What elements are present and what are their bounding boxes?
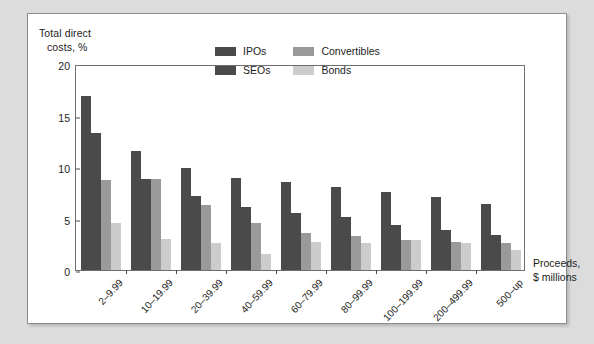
y-axis-title-line-1: Total direct [39, 27, 91, 39]
y-tick-label: 10 [58, 163, 70, 175]
scanned-page-card: Total direct costs, % 05101520 2–9.9910–… [27, 13, 567, 324]
bar-group [131, 66, 171, 270]
bar-chart: Total direct costs, % 05101520 2–9.9910–… [28, 14, 568, 325]
bar-convertibles[interactable] [251, 223, 261, 270]
bar-ipos[interactable] [331, 187, 341, 270]
x-tick-label: 2–9.99 [96, 277, 125, 307]
bar-group [381, 66, 421, 270]
legend-swatch-icon [293, 47, 314, 56]
bar-ipos[interactable] [181, 168, 191, 270]
x-tick-label: 20–39.99 [189, 277, 225, 315]
bar-bonds[interactable] [511, 250, 521, 270]
x-tick-label: 80–99.99 [339, 277, 375, 315]
legend-entry-bonds[interactable]: Bonds [293, 64, 379, 76]
bar-seos[interactable] [141, 179, 151, 270]
plot-frame: 05101520 2–9.9910–19.9920–39.9940–59.996… [75, 65, 525, 271]
bar-seos[interactable] [341, 217, 351, 270]
bar-group [81, 66, 121, 270]
x-tick-label: 500–up [494, 277, 525, 309]
bar-ipos[interactable] [431, 197, 441, 270]
y-axis-title-line-2: costs, % [39, 41, 87, 55]
bar-convertibles[interactable] [351, 236, 361, 270]
legend-entry-ipos[interactable]: IPOs [215, 45, 270, 57]
x-tick-label: 40–59.99 [239, 277, 275, 315]
x-axis-title: Proceeds, $ millions [533, 257, 580, 284]
bar-seos[interactable] [441, 230, 451, 270]
bar-convertibles[interactable] [101, 180, 111, 270]
bar-convertibles[interactable] [401, 240, 411, 270]
bars-layer [76, 66, 524, 270]
bar-ipos[interactable] [231, 178, 241, 270]
bar-group [331, 66, 371, 270]
y-tick-mark [76, 272, 80, 273]
x-tick-mark [376, 270, 377, 274]
x-axis-title-line-2: $ millions [533, 271, 577, 283]
x-tick-label: 200–499.99 [431, 277, 475, 323]
legend: IPOsConvertiblesSEOsBonds [215, 45, 380, 76]
bar-bonds[interactable] [161, 239, 171, 270]
bar-bonds[interactable] [111, 223, 121, 270]
x-axis-title-line-1: Proceeds, [533, 257, 580, 269]
x-tick-label: 100–199.99 [381, 277, 425, 323]
y-tick-label: 5 [64, 215, 70, 227]
bar-ipos[interactable] [481, 204, 491, 270]
bar-group [431, 66, 471, 270]
y-tick-label: 15 [58, 112, 70, 124]
bar-group [281, 66, 321, 270]
bar-seos[interactable] [491, 235, 501, 270]
bar-seos[interactable] [191, 196, 201, 270]
bar-convertibles[interactable] [201, 205, 211, 270]
bar-seos[interactable] [91, 133, 101, 270]
bar-bonds[interactable] [311, 242, 321, 270]
bar-ipos[interactable] [131, 151, 141, 270]
y-tick-label: 0 [64, 266, 70, 278]
x-tick-mark [476, 270, 477, 274]
bar-ipos[interactable] [281, 182, 291, 270]
bar-group [181, 66, 221, 270]
x-tick-mark [276, 270, 277, 274]
bar-convertibles[interactable] [151, 179, 161, 270]
bar-group [231, 66, 271, 270]
x-tick-mark [226, 270, 227, 274]
legend-swatch-icon [293, 66, 314, 75]
bar-bonds[interactable] [261, 254, 271, 270]
bar-group [481, 66, 521, 270]
y-axis-title: Total direct costs, % [39, 27, 91, 54]
legend-label: SEOs [243, 64, 270, 76]
bar-bonds[interactable] [461, 243, 471, 270]
legend-entry-seos[interactable]: SEOs [215, 64, 270, 76]
x-tick-mark [326, 270, 327, 274]
bar-seos[interactable] [241, 207, 251, 270]
y-tick-label: 20 [58, 60, 70, 72]
x-tick-mark [176, 270, 177, 274]
bar-bonds[interactable] [411, 240, 421, 270]
legend-label: IPOs [243, 45, 266, 57]
legend-swatch-icon [215, 47, 236, 56]
legend-label: Bonds [321, 64, 351, 76]
legend-label: Convertibles [321, 45, 379, 57]
legend-entry-convertibles[interactable]: Convertibles [293, 45, 379, 57]
x-tick-mark [126, 270, 127, 274]
bar-convertibles[interactable] [451, 242, 461, 270]
x-tick-label: 60–79.99 [289, 277, 325, 315]
x-tick-label: 10–19.99 [139, 277, 175, 315]
bar-bonds[interactable] [361, 243, 371, 270]
bar-convertibles[interactable] [301, 233, 311, 270]
bar-convertibles[interactable] [501, 243, 511, 270]
legend-swatch-icon [215, 66, 236, 75]
bar-ipos[interactable] [381, 192, 391, 270]
x-tick-mark [426, 270, 427, 274]
bar-seos[interactable] [391, 225, 401, 270]
bar-seos[interactable] [291, 213, 301, 270]
bar-ipos[interactable] [81, 96, 91, 270]
bar-bonds[interactable] [211, 243, 221, 270]
